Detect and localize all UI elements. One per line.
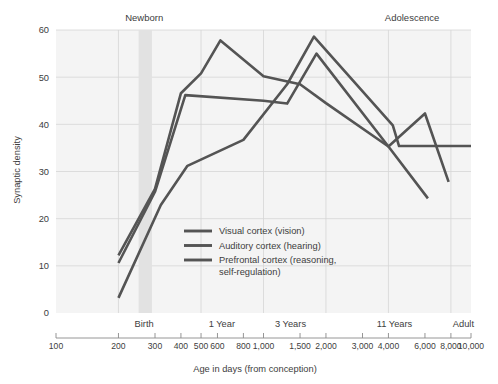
x-tick-label: 1,500 [289,341,311,351]
synaptic-density-chart: 0102030405060 1002003004005006008001,000… [0,0,498,384]
newborn-highlight-band [139,30,152,313]
legend-label-1: Auditory cortex (hearing) [219,241,321,251]
y-tick-label: 10 [39,261,49,271]
stage-label-3-years: 3 Years [275,319,306,329]
stage-label-birth: Birth [135,319,154,329]
x-axis: 1002003004005006008001,0001,5002,0003,00… [49,333,485,351]
stage-annotations: Birth1 Year3 Years11 YearsAdult [135,319,475,329]
x-tick-label: 6,000 [414,341,436,351]
x-tick-label: 3,000 [352,341,374,351]
x-tick-label: 2,000 [315,341,337,351]
x-tick-label: 200 [111,341,126,351]
legend-label-3: self-regulation) [219,267,281,277]
stage-label-11-years: 11 Years [377,319,413,329]
era-annotations: NewbornAdolescence [125,12,439,23]
y-tick-label: 30 [39,167,49,177]
y-tick-label: 0 [44,308,49,318]
legend-label-0: Visual cortex (vision) [219,226,305,236]
y-axis-title: Synaptic density [12,136,22,204]
x-tick-label: 4,000 [378,341,400,351]
era-label-newborn: Newborn [125,12,163,23]
x-tick-label: 500 [194,341,209,351]
y-axis-tick-labels: 0102030405060 [39,25,49,318]
x-tick-label: 1,000 [253,341,275,351]
y-tick-label: 20 [39,214,49,224]
x-axis-title: Age in days (from conception) [193,364,317,374]
chart-svg: 0102030405060 1002003004005006008001,000… [0,0,498,384]
x-tick-label: 300 [148,341,163,351]
legend-label-2: Prefrontal cortex (reasoning, [219,255,336,265]
x-tick-label: 600 [210,341,225,351]
y-tick-label: 60 [39,25,49,35]
stage-label-1-year: 1 Year [209,319,235,329]
x-tick-label: 10,000 [458,341,485,351]
y-tick-label: 40 [39,120,49,130]
x-tick-label: 800 [236,341,251,351]
era-label-adolescence: Adolescence [385,12,439,23]
stage-label-adult: Adult [453,319,475,329]
y-tick-label: 50 [39,73,49,83]
x-tick-label: 100 [49,341,64,351]
x-tick-label: 400 [174,341,189,351]
newborn-band-rect [139,30,152,313]
